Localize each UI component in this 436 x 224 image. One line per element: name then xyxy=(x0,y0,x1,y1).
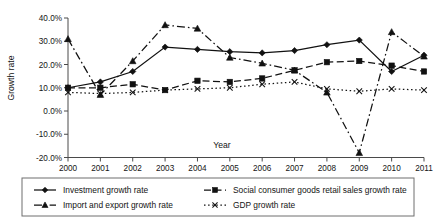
growth-rate-line-chart: Growth rate 40.0%30.0%20.0%10.0%0.0%-10.… xyxy=(0,0,436,224)
x-tick-label: 2000 xyxy=(59,164,78,173)
data-point-marker-triangle xyxy=(324,89,331,95)
y-tick-labels: 40.0%30.0%20.0%10.0%0.0%-10.0%-20.0% xyxy=(36,14,62,163)
x-tick-label: 2009 xyxy=(350,164,369,173)
data-point-marker-square xyxy=(357,58,362,63)
x-tick-label: 2006 xyxy=(253,164,272,173)
y-tick-label: 30.0% xyxy=(39,37,62,46)
x-axis-title: Year xyxy=(213,140,231,150)
x-tick-label: 2001 xyxy=(91,164,110,173)
legend-border xyxy=(22,178,414,216)
legend-entry[interactable]: Import and export growth rate xyxy=(34,200,173,210)
data-point-marker-square xyxy=(324,59,329,64)
y-tick-label: -10.0% xyxy=(36,130,62,139)
legend-label: Social consumer goods retail sales growt… xyxy=(233,185,407,195)
series-line xyxy=(68,25,424,153)
legend-label: GDP growth rate xyxy=(233,200,296,210)
data-point-marker-diamond xyxy=(42,187,48,193)
legend-label: Investment growth rate xyxy=(63,185,149,195)
x-tick-label: 2011 xyxy=(415,164,433,173)
x-tick-label: 2008 xyxy=(318,164,337,173)
x-tick-label: 2010 xyxy=(383,164,402,173)
data-point-marker-square xyxy=(65,85,70,90)
legend-label: Import and export growth rate xyxy=(63,200,173,210)
legend-entry[interactable]: Investment growth rate xyxy=(34,185,149,195)
data-point-marker-diamond xyxy=(324,42,330,48)
x-axis-title-text: Year xyxy=(213,140,231,150)
data-point-marker-cross xyxy=(292,79,298,85)
series-4 xyxy=(65,79,427,96)
data-point-marker-triangle xyxy=(42,202,48,208)
series-1 xyxy=(65,37,427,91)
x-tick-label: 2002 xyxy=(124,164,143,173)
y-axis-title-text: Growth rate xyxy=(6,55,16,100)
x-tick-label: 2007 xyxy=(285,164,304,173)
y-tick-label: 10.0% xyxy=(39,84,62,93)
data-point-marker-square xyxy=(98,85,103,90)
data-point-marker-cross xyxy=(389,86,395,92)
data-point-marker-triangle xyxy=(388,29,395,35)
plot-series-group xyxy=(65,22,428,156)
x-tick-label: 2003 xyxy=(156,164,175,173)
legend-entry[interactable]: Social consumer goods retail sales growt… xyxy=(204,185,407,195)
x-tick-label: 2004 xyxy=(188,164,207,173)
data-point-marker-square xyxy=(389,63,394,68)
data-point-marker-cross xyxy=(356,88,362,94)
data-point-marker-diamond xyxy=(259,50,265,56)
chart-legend: Investment growth rateImport and export … xyxy=(22,178,414,216)
data-point-marker-square xyxy=(227,79,232,84)
data-point-marker-triangle xyxy=(356,150,363,156)
data-point-marker-diamond xyxy=(97,79,103,85)
chart-container: Growth rate 40.0%30.0%20.0%10.0%0.0%-10.… xyxy=(0,0,436,224)
data-point-marker-diamond xyxy=(291,47,297,53)
y-axis-title: Growth rate xyxy=(6,55,16,100)
data-point-marker-triangle xyxy=(227,54,234,60)
data-point-marker-diamond xyxy=(194,46,200,52)
axis-lines xyxy=(68,18,424,158)
y-tick-label: 0.0% xyxy=(43,107,62,116)
data-point-marker-square xyxy=(259,76,264,81)
x-tick-marks xyxy=(68,158,424,162)
x-tick-label: 2005 xyxy=(221,164,240,173)
data-point-marker-square xyxy=(130,82,135,87)
y-tick-label: 20.0% xyxy=(39,61,62,70)
y-tick-label: 40.0% xyxy=(39,14,62,23)
data-point-marker-cross xyxy=(421,87,427,93)
x-tick-labels: 2000200120022003200420052006200720082009… xyxy=(59,164,433,173)
series-3 xyxy=(65,22,428,156)
data-point-marker-square xyxy=(213,188,218,193)
data-point-marker-square xyxy=(195,78,200,83)
data-point-marker-triangle xyxy=(65,36,72,42)
y-tick-label: -20.0% xyxy=(36,154,62,163)
series-line xyxy=(68,82,424,94)
data-point-marker-cross xyxy=(259,81,265,87)
legend-entry[interactable]: GDP growth rate xyxy=(204,200,296,210)
data-point-marker-square xyxy=(421,69,426,74)
